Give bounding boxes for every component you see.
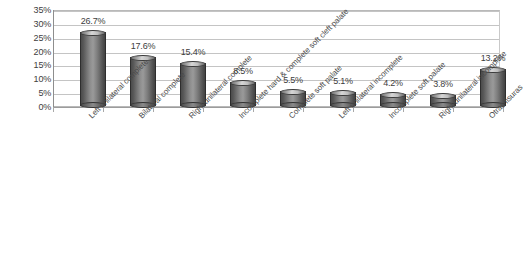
- y-axis-line: [53, 10, 54, 107]
- y-tick-label: 30%: [5, 20, 51, 29]
- x-axis-tick: [53, 107, 54, 112]
- bar-value-label: 17.6%: [116, 42, 170, 51]
- bar-top-ellipse: [180, 61, 206, 67]
- bar-top-ellipse: [330, 90, 356, 96]
- y-tick-label: 5%: [5, 89, 51, 98]
- bar-top-ellipse: [80, 30, 106, 36]
- bar[interactable]: [80, 32, 106, 106]
- bar-top-ellipse: [230, 80, 256, 86]
- gridline-0: [54, 107, 499, 108]
- y-tick-label: 35%: [5, 6, 51, 15]
- y-tick-label: 15%: [5, 61, 51, 70]
- y-tick-label: 20%: [5, 48, 51, 57]
- y-tick-label: 0%: [5, 103, 51, 112]
- bar-top-ellipse: [280, 89, 306, 95]
- y-tick-label: 10%: [5, 75, 51, 84]
- bar-value-label: 26.7%: [66, 17, 120, 26]
- y-tick-label: 25%: [5, 34, 51, 43]
- bar-value-label: 15.4%: [166, 48, 220, 57]
